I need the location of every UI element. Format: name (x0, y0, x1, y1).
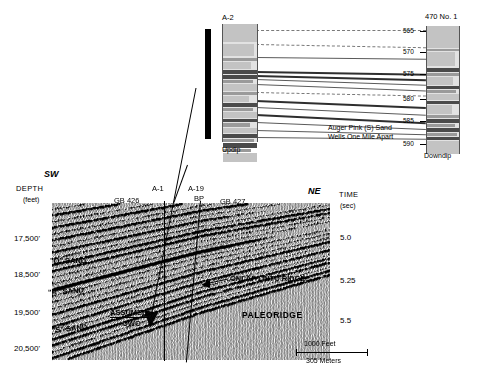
depth-tick-575: 575 (403, 71, 414, 78)
well-label-a-19: A-19 (188, 185, 204, 193)
time-tick-5-25: 5.25 (340, 277, 356, 285)
right-well-label: 470 No. 1 (425, 13, 458, 21)
seismic-section: SW NE DEPTH (feet) TIME (sec) 17,500' 18… (0, 165, 482, 390)
depth-axis-units: (feet) (23, 196, 39, 203)
azimuth-ne-label: NE (308, 187, 321, 196)
well-correlation-panel: A-2 470 No. 1 (200, 4, 482, 160)
well-label-a-1: A-1 (152, 185, 164, 193)
scale-label-meters: 305 Meters (306, 357, 378, 364)
depth-tick-18500: 18,500' (14, 271, 40, 279)
panel-caption-line1: Auger Pink (S) Sand (328, 124, 392, 131)
time-axis-title: TIME (339, 191, 359, 199)
index-bar (205, 29, 211, 139)
scale-bar: 1000 Feet 305 Meters (296, 340, 368, 364)
horizon-label-q-sand: "Q" SAND (50, 257, 86, 265)
time-tick-5-5: 5.5 (340, 317, 351, 325)
downdip-label: Downdip (424, 152, 451, 159)
correlation-line (256, 92, 426, 97)
depth-axis-title: DEPTH (16, 185, 43, 193)
depth-tick-20500: 20,500' (14, 345, 40, 353)
depth-tick-580: 580 (403, 96, 414, 103)
left-well-label: A-2 (222, 14, 234, 22)
annotation-assumed: ASSUMED (110, 309, 148, 318)
depth-tick-570: 570 (403, 49, 414, 56)
time-axis-units: (sec) (340, 202, 356, 209)
well-trace-a-1 (164, 201, 165, 361)
depth-tick-585: 585 (403, 118, 414, 125)
well-log-column-left (222, 24, 258, 142)
well-operator-bp: BP (194, 195, 204, 203)
depth-tick-590: 590 (403, 141, 414, 148)
panel-caption-line2: Wells One Mile Apart (328, 133, 393, 140)
figure-root: A-2 470 No. 1 (0, 0, 482, 390)
annotation-onlap-onto-ridge: ONLAP ONTO RIDGE (230, 275, 306, 283)
updip-label: Updip (222, 146, 240, 153)
depth-tick-19500: 19,500' (14, 309, 40, 317)
block-label-gb-427: GB 427 (220, 198, 245, 206)
annotation-paleoridge: PALEORIDGE (242, 311, 303, 320)
depth-tick-17500: 17,500' (14, 235, 40, 243)
correlation-line (256, 57, 426, 60)
scale-label-feet: 1000 Feet (304, 340, 376, 347)
annotation-owc: OWC (122, 320, 140, 328)
well-trace-projected (173, 165, 188, 203)
correlation-line (256, 44, 426, 48)
well-log-column-right (426, 26, 460, 154)
correlation-line (256, 30, 426, 31)
block-label-gb-426: GB 426 (114, 197, 139, 205)
depth-tick-565: 565 (403, 28, 414, 35)
correlation-line (256, 84, 426, 92)
time-tick-5-0: 5.0 (340, 234, 351, 242)
azimuth-sw-label: SW (44, 170, 59, 179)
